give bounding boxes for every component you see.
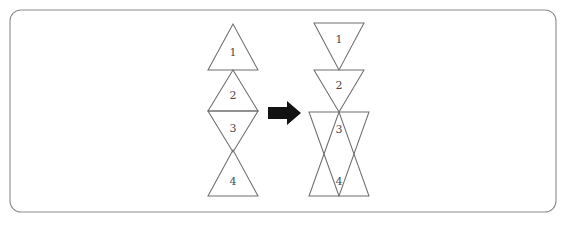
target-triangle-label-1: 1 [336, 33, 343, 46]
right-arrow-icon [268, 101, 301, 125]
source-triangle-4 [208, 150, 258, 196]
figure-root: 1234 1234 [0, 0, 572, 226]
source-triangle-label-4: 4 [230, 175, 237, 188]
target-triangle-strip: 1234 [309, 23, 369, 196]
transform-arrow [268, 101, 301, 125]
target-triangle-label-2: 2 [336, 79, 343, 92]
source-triangle-label-3: 3 [230, 122, 237, 135]
source-triangle-strip: 1234 [208, 24, 258, 196]
source-triangle-label-1: 1 [230, 46, 237, 59]
target-triangle-label-4: 4 [336, 175, 343, 188]
target-triangle-1 [314, 23, 364, 70]
figure-canvas: 1234 1234 [0, 0, 572, 226]
source-triangle-label-2: 2 [230, 89, 237, 102]
